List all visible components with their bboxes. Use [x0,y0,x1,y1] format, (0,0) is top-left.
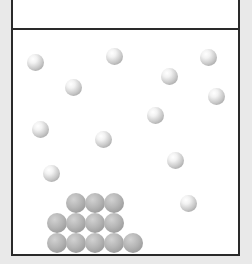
free-sphere [200,49,217,66]
free-sphere [147,107,164,124]
stacked-sphere [47,233,67,253]
stacked-sphere [66,233,86,253]
stacked-sphere [85,213,105,233]
divider-line [11,28,240,30]
stacked-sphere [104,213,124,233]
stacked-sphere [123,233,143,253]
free-sphere [167,152,184,169]
free-sphere [95,131,112,148]
free-sphere [43,165,60,182]
stacked-sphere [47,213,67,233]
stacked-sphere [85,193,105,213]
free-sphere [161,68,178,85]
stacked-sphere [85,233,105,253]
stacked-sphere [104,233,124,253]
free-sphere [208,88,225,105]
stacked-sphere [104,193,124,213]
free-sphere [180,195,197,212]
free-sphere [65,79,82,96]
free-sphere [106,48,123,65]
stacked-sphere [66,213,86,233]
free-sphere [32,121,49,138]
stacked-sphere [66,193,86,213]
free-sphere [27,54,44,71]
